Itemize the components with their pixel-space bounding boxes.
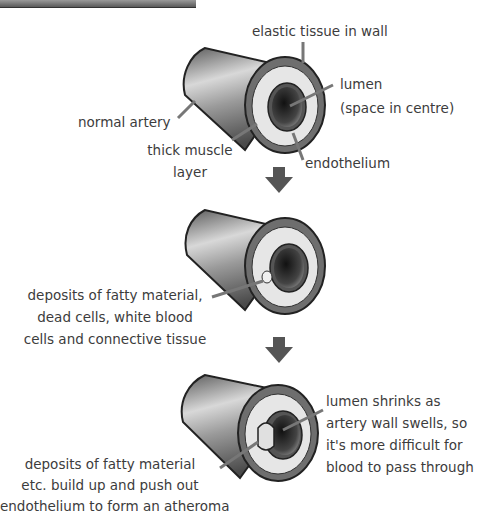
label-lumen: lumen bbox=[340, 76, 382, 93]
label-lumen-shrinks-2: artery wall swells, so bbox=[326, 415, 467, 432]
label-atheroma-1: deposits of fatty material bbox=[0, 456, 220, 473]
label-endothelium: endothelium bbox=[305, 155, 390, 172]
label-atheroma-3: endothelium to form an atheroma bbox=[0, 498, 220, 515]
down-arrow-2 bbox=[265, 337, 293, 363]
label-deposits-1: deposits of fatty material, bbox=[20, 287, 210, 304]
label-lumen-shrinks-1: lumen shrinks as bbox=[326, 393, 441, 410]
label-deposits-3: cells and connective tissue bbox=[20, 331, 210, 348]
label-muscle-2: layer bbox=[145, 164, 235, 181]
label-elastic-tissue: elastic tissue in wall bbox=[252, 23, 388, 40]
label-deposits-2: dead cells, white blood bbox=[20, 309, 210, 326]
label-muscle-1: thick muscle bbox=[145, 142, 235, 159]
label-lumen-desc: (space in centre) bbox=[340, 100, 454, 117]
label-normal-artery: normal artery bbox=[78, 114, 171, 131]
label-atheroma-2: etc. build up and push out bbox=[0, 477, 220, 494]
label-lumen-shrinks-3: it's more difficult for bbox=[326, 437, 463, 454]
label-lumen-shrinks-4: blood to pass through bbox=[326, 459, 474, 476]
down-arrow-1 bbox=[265, 167, 293, 193]
